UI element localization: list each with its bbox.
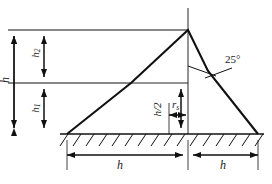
embankment-outline	[67, 30, 258, 134]
diagram-canvas	[0, 0, 272, 184]
label-base-left: h	[117, 159, 123, 171]
label-upper-height: h2	[30, 48, 42, 57]
ground-hatching	[60, 134, 263, 146]
label-lower-height: h1	[30, 103, 42, 112]
engineering-diagram: h h2 h1 h/2 rs 25° h h	[0, 0, 272, 184]
ground-line-group	[60, 134, 264, 146]
label-crest-offset: rs	[172, 99, 179, 111]
label-base-right: h	[220, 159, 226, 171]
label-total-height: h	[0, 77, 11, 83]
slope-profile	[67, 30, 258, 134]
label-angle-25deg: 25°	[225, 54, 240, 65]
label-half-height: h/2	[152, 102, 163, 116]
